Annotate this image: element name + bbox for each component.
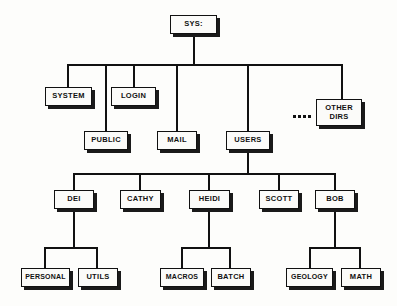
ellipsis-dot: [303, 115, 306, 118]
connector-drop-system: [67, 64, 69, 87]
node-label-personal: PERSONAL: [25, 273, 66, 281]
node-cathy[interactable]: CATHY: [120, 190, 161, 209]
node-label-mail: MAIL: [167, 136, 187, 145]
node-personal[interactable]: PERSONAL: [21, 268, 70, 287]
node-label-other-dirs: OTHER DIRS: [325, 104, 353, 122]
node-math[interactable]: MATH: [341, 268, 381, 287]
connector-drop-macros: [181, 247, 183, 268]
node-label-sys: SYS:: [184, 20, 203, 29]
node-sys[interactable]: SYS:: [170, 15, 217, 34]
connector-drop-public: [105, 64, 107, 131]
node-public[interactable]: PUBLIC: [84, 131, 128, 150]
node-label-batch: BATCH: [217, 273, 244, 282]
connector-drop-math: [359, 247, 361, 268]
connector-drop-users: [247, 64, 249, 131]
connector-bob-bus: [309, 247, 361, 249]
node-utils[interactable]: UTILS: [78, 268, 118, 287]
ellipsis-more-dirs: [293, 115, 311, 118]
connector-sys-bus: [67, 64, 343, 66]
connector-drop-utils: [96, 247, 98, 268]
connector-heidi-stem: [208, 209, 210, 248]
node-label-geology: GEOLOGY: [291, 273, 328, 281]
node-label-users: USERS: [234, 136, 261, 145]
ellipsis-dot: [308, 115, 311, 118]
node-macros[interactable]: MACROS: [160, 268, 204, 287]
connector-dei-stem: [73, 209, 75, 248]
connector-drop-cathy: [139, 173, 141, 190]
node-label-dei: DEI: [67, 195, 80, 204]
connector-drop-geology: [309, 247, 311, 268]
connector-drop-mail: [176, 64, 178, 131]
node-geology[interactable]: GEOLOGY: [286, 268, 333, 287]
connector-sys-stem: [193, 34, 195, 65]
node-label-login: LOGIN: [121, 92, 146, 101]
connector-drop-heidi: [208, 173, 210, 190]
connector-drop-personal: [44, 247, 46, 268]
connector-drop-scott: [278, 173, 280, 190]
connector-users-stem: [247, 150, 249, 174]
directory-tree-diagram: SYS: SYSTEM LOGIN PUBLIC MAIL USERS OTHE…: [0, 0, 397, 306]
connector-bob-stem: [334, 209, 336, 248]
connector-drop-other-dirs: [341, 64, 343, 99]
ellipsis-dot: [293, 115, 296, 118]
node-bob[interactable]: BOB: [315, 190, 355, 209]
node-system[interactable]: SYSTEM: [45, 87, 92, 106]
node-label-heidi: HEIDI: [199, 195, 221, 204]
node-label-system: SYSTEM: [52, 92, 85, 101]
node-batch[interactable]: BATCH: [211, 268, 251, 287]
connector-drop-batch: [229, 247, 231, 268]
connector-heidi-bus: [181, 247, 231, 249]
node-label-cathy: CATHY: [127, 195, 154, 204]
node-label-bob: BOB: [326, 195, 344, 204]
node-other-dirs[interactable]: OTHER DIRS: [316, 99, 362, 126]
node-dei[interactable]: DEI: [54, 190, 94, 209]
node-heidi[interactable]: HEIDI: [189, 190, 230, 209]
node-scott[interactable]: SCOTT: [259, 190, 299, 209]
ellipsis-dot: [298, 115, 301, 118]
node-label-scott: SCOTT: [266, 195, 293, 204]
connector-drop-bob: [334, 173, 336, 190]
node-users[interactable]: USERS: [226, 131, 270, 150]
connector-users-bus: [73, 173, 336, 175]
node-label-public: PUBLIC: [91, 136, 121, 145]
connector-dei-bus: [44, 247, 98, 249]
node-label-macros: MACROS: [166, 273, 198, 281]
node-label-math: MATH: [350, 273, 372, 282]
connector-drop-login: [133, 64, 135, 87]
connector-drop-dei: [73, 173, 75, 190]
node-login[interactable]: LOGIN: [111, 87, 156, 106]
node-label-utils: UTILS: [86, 273, 109, 282]
node-mail[interactable]: MAIL: [157, 131, 197, 150]
